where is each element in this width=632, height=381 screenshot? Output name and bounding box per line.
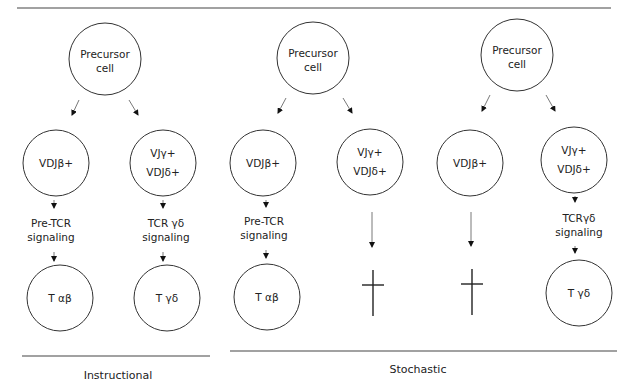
- node-label: VDJδ+: [557, 163, 591, 175]
- arrow: [343, 98, 352, 113]
- node-label: VDJβ+: [246, 157, 280, 169]
- node-label: VDJβ+: [39, 157, 73, 169]
- arrow: [482, 95, 490, 111]
- node-label: T γδ: [155, 292, 178, 304]
- vjg-vdjd-node: [130, 130, 196, 196]
- signal-label: signaling: [142, 231, 189, 243]
- cell-death-cross-icon: [461, 269, 483, 315]
- node-label: Precursor: [492, 44, 542, 56]
- stochastic-label: Stochastic: [390, 363, 447, 376]
- node-label: VDJδ+: [353, 165, 387, 177]
- node-label: T γδ: [567, 287, 590, 299]
- tcell-lineage-diagram: Precursor cell VDJβ+ VJγ+ VDJδ+ Pre-TCR …: [0, 0, 632, 381]
- node-label: VJγ+: [357, 146, 382, 158]
- instructional-label: Instructional: [84, 369, 153, 381]
- node-label: cell: [508, 58, 526, 70]
- signal-label: Pre-TCR: [31, 217, 71, 229]
- node-label: VDJδ+: [146, 166, 180, 178]
- node-label: cell: [96, 62, 114, 74]
- panel-stochastic-2: Precursor cell VDJβ+ VJγ+ VDJδ+ TCRγδ si…: [437, 19, 612, 326]
- signal-label: signaling: [555, 226, 602, 238]
- vjg-vdjd-node: [337, 129, 403, 195]
- signal-label: Pre-TCR: [244, 215, 284, 227]
- node-label: T αβ: [47, 292, 71, 304]
- vjg-vdjd-node: [541, 127, 607, 193]
- arrow: [72, 100, 79, 115]
- arrow: [278, 98, 286, 113]
- cell-death-cross-icon: [362, 270, 384, 316]
- arrow: [129, 100, 138, 115]
- node-label: cell: [304, 61, 322, 73]
- arrow: [546, 95, 555, 111]
- node-label: T αβ: [254, 291, 278, 303]
- node-label: VJγ+: [150, 147, 175, 159]
- node-label: Precursor: [288, 47, 338, 59]
- signal-label: signaling: [240, 229, 287, 241]
- panel-stochastic-1: Precursor cell VDJβ+ VJγ+ VDJδ+ Pre-TCR …: [230, 22, 403, 330]
- node-label: Precursor: [80, 48, 130, 60]
- signal-label: TCR γδ: [147, 217, 184, 229]
- node-label: VDJβ+: [453, 157, 487, 169]
- node-label: VJγ+: [561, 144, 586, 156]
- signal-label: signaling: [27, 231, 74, 243]
- signal-label: TCRγδ: [561, 212, 595, 224]
- panel-instructional: Precursor cell VDJβ+ VJγ+ VDJδ+ Pre-TCR …: [22, 23, 210, 381]
